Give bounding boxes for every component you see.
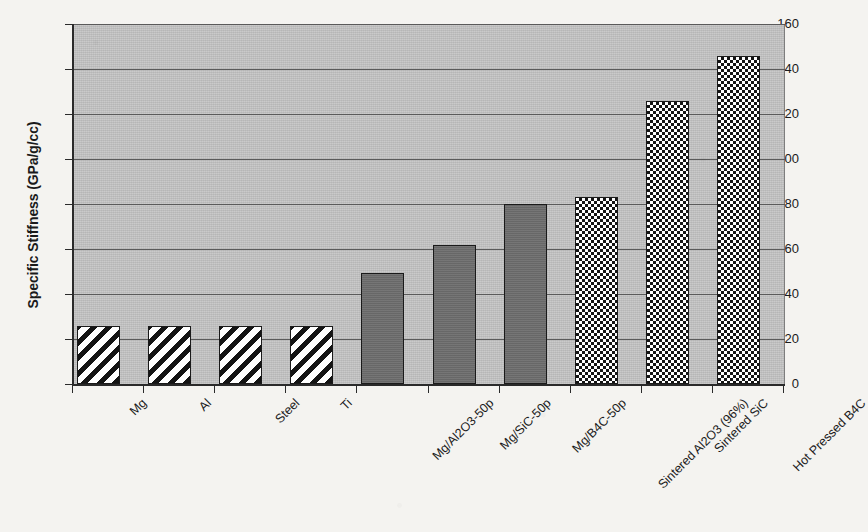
x-tick-mark — [428, 386, 429, 393]
x-axis-line — [72, 384, 785, 386]
plot-area — [72, 24, 785, 384]
bar — [219, 326, 262, 385]
x-axis-category-label: Mg/SiC-50p — [497, 396, 554, 453]
x-tick-mark — [499, 386, 500, 393]
gridline — [74, 24, 785, 25]
x-axis-category-label: Steel — [273, 396, 303, 426]
x-tick-mark — [712, 386, 713, 393]
y-axis-title: Specific Stiffness (GPa/g/cc) — [22, 90, 44, 340]
x-tick-mark — [285, 386, 286, 393]
x-axis-category-label: Al — [196, 396, 214, 414]
bar — [148, 326, 191, 385]
bar — [575, 197, 618, 384]
gridline — [74, 69, 785, 70]
x-axis-category-label: Mg — [127, 396, 149, 418]
x-axis-category-label: Ti — [338, 396, 355, 413]
bar — [717, 56, 760, 385]
bar — [433, 245, 476, 385]
x-tick-mark — [356, 386, 357, 393]
x-axis-category-label: Sintered Al2O3 (96%) — [655, 396, 750, 491]
bar — [290, 326, 333, 385]
x-axis-category-label: Mg/B4C-50p — [569, 396, 629, 456]
x-axis-category-label: Mg/Al2O3-50p — [430, 396, 497, 463]
x-tick-mark — [641, 386, 642, 393]
x-tick-mark — [214, 386, 215, 393]
bar — [77, 326, 120, 385]
bar — [504, 204, 547, 384]
x-axis-category-label: Hot Pressed B4C — [790, 396, 868, 474]
bar — [646, 101, 689, 385]
x-tick-mark — [72, 386, 73, 393]
x-tick-mark — [143, 386, 144, 393]
bar — [361, 273, 404, 384]
x-tick-mark — [570, 386, 571, 393]
x-tick-mark — [783, 386, 784, 393]
